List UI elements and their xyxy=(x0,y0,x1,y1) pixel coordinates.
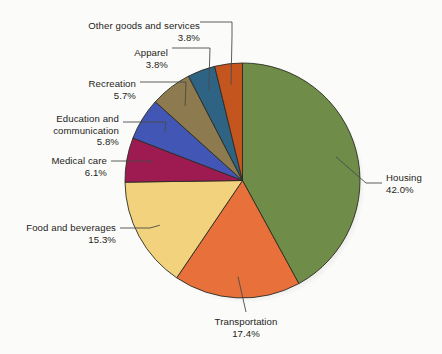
pie-label-apparel-name: Apparel xyxy=(134,47,168,58)
pie-slices-group xyxy=(125,63,360,298)
pie-label-housing: Housing 42.0% xyxy=(386,172,442,195)
pie-label-transportation-name: Transportation xyxy=(215,316,278,327)
pie-label-other-goods-and-services: Other goods and services 3.8% xyxy=(0,20,200,43)
pie-label-education-and-communication: Education and communication 5.8% xyxy=(0,113,119,148)
pie-label-recreation-value: 5.7% xyxy=(0,90,136,102)
pie-label-food-and-beverages-value: 15.3% xyxy=(0,234,116,246)
pie-label-transportation-value: 17.4% xyxy=(186,328,306,340)
pie-label-apparel: Apparel 3.8% xyxy=(0,47,168,70)
pie-label-other-goods-and-services-name: Other goods and services xyxy=(88,20,200,31)
pie-label-education-and-communication-name2: communication xyxy=(0,125,119,137)
pie-label-food-and-beverages: Food and beverages 15.3% xyxy=(0,222,116,245)
pie-label-medical-care-value: 6.1% xyxy=(0,167,107,179)
pie-label-housing-value: 42.0% xyxy=(386,184,442,196)
pie-label-food-and-beverages-name: Food and beverages xyxy=(26,222,116,233)
pie-label-housing-name: Housing xyxy=(386,172,422,183)
pie-label-recreation: Recreation 5.7% xyxy=(0,78,136,101)
pie-label-apparel-value: 3.8% xyxy=(0,59,168,71)
pie-label-other-goods-and-services-value: 3.8% xyxy=(0,32,200,44)
pie-label-medical-care-name: Medical care xyxy=(51,155,107,166)
pie-label-recreation-name: Recreation xyxy=(89,78,136,89)
pie-label-education-and-communication-value: 5.8% xyxy=(0,136,119,148)
pie-label-medical-care: Medical care 6.1% xyxy=(0,155,107,178)
pie-label-education-and-communication-name: Education and xyxy=(56,113,119,124)
pie-chart: Other goods and services 3.8% Apparel 3.… xyxy=(0,0,442,354)
pie-label-transportation: Transportation 17.4% xyxy=(186,316,306,339)
